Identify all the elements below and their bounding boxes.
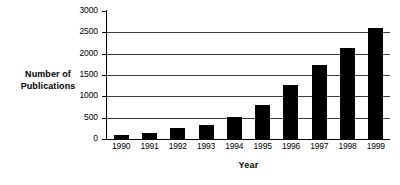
x-tick-label-1997: 1997: [305, 141, 333, 152]
bar-1995: [255, 105, 270, 139]
x-axis-tick-labels: 1990199119921993199419951996199719981999: [107, 141, 390, 153]
y-tick-label-500: 500: [64, 113, 98, 122]
x-tick-label-1999: 1999: [362, 141, 390, 152]
y-tick-label-2000: 2000: [64, 49, 98, 58]
x-tick-label-1990: 1990: [107, 141, 135, 152]
y-tick-mark-3000: [102, 11, 107, 12]
y-tick-label-0: 0: [64, 134, 98, 143]
x-tick-label-1998: 1998: [333, 141, 361, 152]
bar-1992: [170, 128, 185, 139]
bar-1993: [199, 125, 214, 139]
bar-1994: [227, 117, 242, 139]
x-tick-label-1996: 1996: [277, 141, 305, 152]
y-tick-mark-1500: [102, 75, 107, 76]
y-tick-mark-2000: [102, 54, 107, 55]
bar-1998: [340, 48, 355, 139]
x-axis-title: Year: [107, 160, 390, 170]
x-tick-label-1991: 1991: [135, 141, 163, 152]
plot-area: [107, 11, 390, 139]
x-tick-label-1993: 1993: [192, 141, 220, 152]
y-tick-label-1000: 1000: [64, 91, 98, 100]
x-tick-label-1995: 1995: [249, 141, 277, 152]
axis-baseline: [107, 139, 390, 140]
y-tick-mark-0: [102, 139, 107, 140]
x-tick-label-1992: 1992: [164, 141, 192, 152]
x-tick-label-1994: 1994: [220, 141, 248, 152]
y-tick-mark-2500: [102, 32, 107, 33]
y-tick-mark-500: [102, 118, 107, 119]
bars-group: [107, 11, 390, 139]
y-axis-tick-labels: 050010001500200025003000: [62, 0, 98, 185]
y-tick-label-3000: 3000: [64, 6, 98, 15]
bar-chart-figure: Number of Publications 05001000150020002…: [0, 0, 400, 185]
bar-1991: [142, 133, 157, 139]
y-tick-label-2500: 2500: [64, 27, 98, 36]
y-tick-mark-1000: [102, 96, 107, 97]
bar-1999: [368, 28, 383, 139]
y-tick-label-1500: 1500: [64, 70, 98, 79]
bar-1990: [114, 135, 129, 139]
bar-1996: [283, 85, 298, 139]
bar-1997: [312, 65, 327, 139]
